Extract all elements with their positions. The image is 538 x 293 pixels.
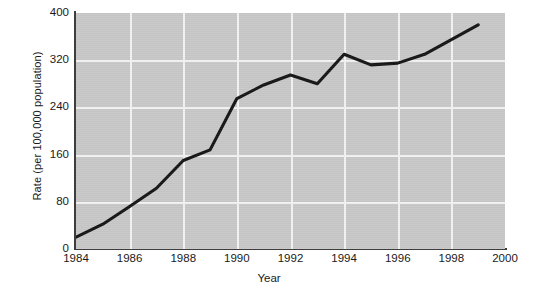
x-axis-tick-labels: 198419861988199019921994199619982000 bbox=[0, 253, 538, 269]
plot-area bbox=[76, 13, 505, 249]
x-tick-label: 1994 bbox=[331, 253, 357, 265]
y-tick-label: 400 bbox=[38, 7, 74, 19]
chart-figure: Rate (per 100,000 population) 0801602403… bbox=[0, 0, 538, 293]
x-tick-label: 1992 bbox=[278, 253, 304, 265]
y-tick-label: 160 bbox=[38, 149, 74, 161]
x-tick-label: 1996 bbox=[385, 253, 411, 265]
x-tick-label: 1998 bbox=[439, 253, 465, 265]
line-series-rate bbox=[76, 13, 505, 249]
x-tick-label: 1990 bbox=[224, 253, 250, 265]
y-tick-label: 320 bbox=[38, 54, 74, 66]
y-tick-label: 240 bbox=[38, 102, 74, 114]
y-axis-tick-labels: 080160240320400 bbox=[38, 0, 74, 293]
x-axis-title: Year bbox=[0, 272, 538, 284]
y-tick-label: 80 bbox=[38, 196, 74, 208]
x-tick-label: 1986 bbox=[117, 253, 143, 265]
x-tick-label: 1984 bbox=[63, 253, 89, 265]
x-tick-label: 1988 bbox=[170, 253, 196, 265]
x-tick-label: 2000 bbox=[492, 253, 518, 265]
line-series-path bbox=[76, 25, 478, 237]
